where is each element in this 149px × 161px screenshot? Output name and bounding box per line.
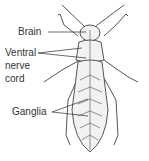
ganglia-label: Ganglia bbox=[12, 106, 46, 117]
ventral-nerve-cord-label-line3: cord bbox=[5, 73, 24, 84]
ventral-nerve-cord-label-line2: nerve bbox=[5, 60, 30, 71]
ventral-nerve-cord-label-line1: Ventral bbox=[5, 47, 36, 58]
left-antenna bbox=[62, 5, 84, 26]
right-antenna bbox=[96, 5, 124, 26]
brain-label: Brain bbox=[18, 26, 41, 37]
ventral-nerve-cord-leader-line-1 bbox=[38, 48, 82, 53]
grasshopper-diagram: Brain Ventral nerve cord Ganglia bbox=[0, 0, 149, 161]
